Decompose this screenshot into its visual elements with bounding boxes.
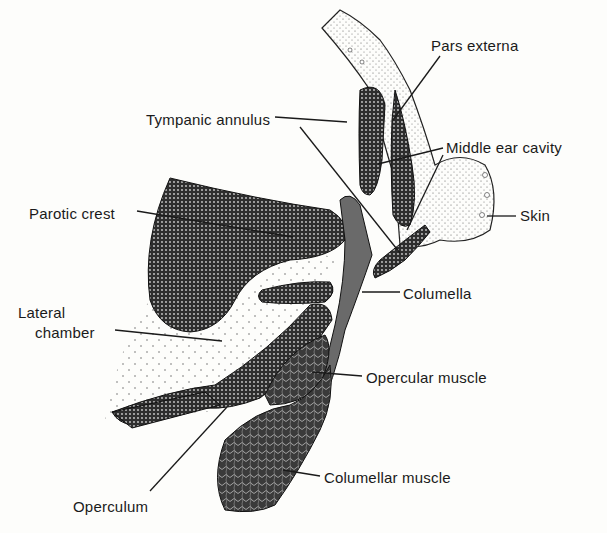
label-tympanic-annulus: Tympanic annulus xyxy=(146,111,270,128)
label-columellar-muscle: Columellar muscle xyxy=(324,469,451,486)
label-pars-externa: Pars externa xyxy=(431,37,518,54)
label-parotic-crest: Parotic crest xyxy=(29,205,115,222)
label-columella: Columella xyxy=(403,285,472,302)
ear-anatomy-figure xyxy=(0,0,607,533)
label-operculum: Operculum xyxy=(73,498,148,515)
label-middle-ear-cavity: Middle ear cavity xyxy=(446,139,562,156)
label-skin: Skin xyxy=(520,207,550,224)
label-opercular-muscle: Opercular muscle xyxy=(366,369,487,386)
label-lateral-chamber-line2: chamber xyxy=(35,324,95,341)
label-lateral-chamber-line1: Lateral xyxy=(18,304,65,321)
